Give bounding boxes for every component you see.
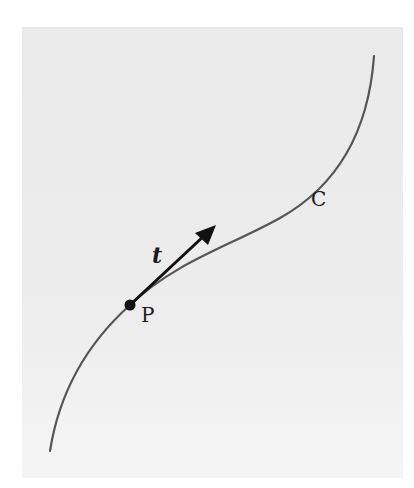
tangent-diagram [0, 0, 414, 488]
tangent-vector-arrow [130, 225, 216, 305]
point-p-dot [125, 300, 136, 311]
tangent-label: t [152, 244, 162, 266]
curve-c [50, 56, 374, 451]
point-label: P [141, 305, 154, 325]
curve-label: C [311, 189, 326, 209]
